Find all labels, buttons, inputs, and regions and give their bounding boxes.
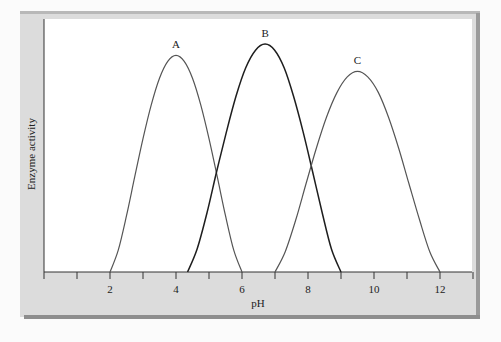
x-tick-label: 10: [369, 283, 381, 295]
x-axis-label: pH: [251, 297, 265, 309]
x-tick-label: 4: [173, 283, 179, 295]
curve-label-b: B: [261, 27, 268, 39]
x-tick-label: 12: [435, 283, 446, 295]
x-axis-ticks: [44, 272, 473, 279]
x-tick-label: 6: [239, 283, 245, 295]
y-axis-label: Enzyme activity: [25, 118, 37, 190]
plot-area: [44, 19, 472, 272]
curve-label-c: C: [354, 54, 361, 66]
x-axis-tick-labels: 24681012: [107, 283, 445, 295]
x-tick-label: 8: [305, 283, 311, 295]
curve-label-a: A: [172, 38, 180, 50]
x-tick-label: 2: [107, 283, 113, 295]
enzyme-activity-chart: 24681012 ABC pH Enzyme activity: [0, 0, 501, 342]
